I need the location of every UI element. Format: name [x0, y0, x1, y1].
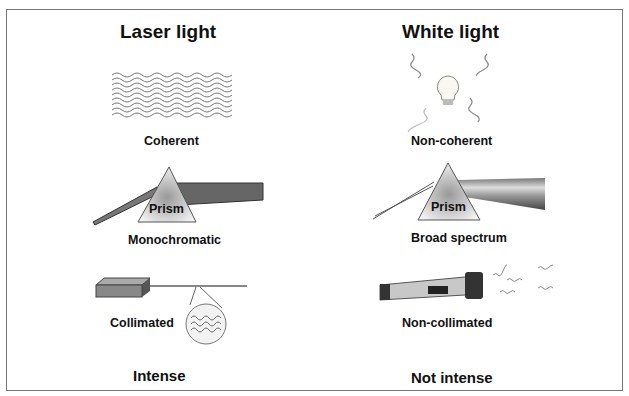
- magnifier-wave-icon: [186, 287, 226, 344]
- white-light-title: White light: [402, 21, 499, 43]
- property-non-collimated: Non-collimated: [402, 316, 492, 330]
- property-broad-spectrum: Broad spectrum: [411, 231, 507, 245]
- prism-label: Prism: [431, 200, 466, 214]
- laser-wave-icon: [112, 73, 232, 117]
- laser-device-icon: [96, 278, 247, 297]
- prism-icon: [93, 167, 263, 225]
- property-coherent: Coherent: [144, 134, 199, 148]
- laser-light-title: Laser light: [120, 21, 216, 43]
- property-non-coherent: Non-coherent: [411, 134, 492, 148]
- prism-label: Prism: [149, 202, 184, 216]
- light-bulb-icon: [408, 54, 488, 132]
- property-monochromatic: Monochromatic: [128, 233, 221, 247]
- flashlight-icon: [380, 265, 553, 300]
- property-intense: Intense: [133, 367, 186, 384]
- property-collimated: Collimated: [110, 316, 174, 330]
- property-not-intense: Not intense: [411, 369, 493, 386]
- diagram-illustrations: [0, 0, 629, 396]
